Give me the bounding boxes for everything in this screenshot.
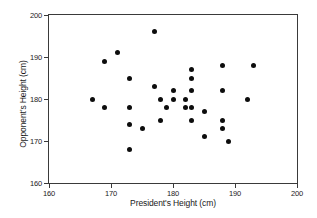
data-point bbox=[251, 63, 256, 68]
data-point bbox=[189, 118, 194, 123]
x-axis-tick-label: 160 bbox=[43, 189, 55, 198]
x-axis-tick bbox=[173, 183, 174, 188]
data-points-layer bbox=[49, 15, 297, 183]
data-point bbox=[183, 97, 188, 102]
data-point bbox=[226, 139, 231, 144]
data-point bbox=[220, 126, 225, 131]
data-point bbox=[102, 59, 107, 64]
data-point bbox=[158, 118, 163, 123]
plot-area: 160170180190200160170180190200 bbox=[48, 14, 298, 184]
scatter-chart: 160170180190200160170180190200 President… bbox=[0, 0, 317, 218]
data-point bbox=[164, 105, 169, 110]
data-point bbox=[152, 84, 157, 89]
y-axis-tick-label: 200 bbox=[30, 11, 42, 20]
data-point bbox=[202, 109, 207, 114]
data-point bbox=[189, 67, 194, 72]
data-point bbox=[127, 76, 132, 81]
data-point bbox=[220, 118, 225, 123]
data-point bbox=[102, 105, 107, 110]
x-axis-tick-label: 190 bbox=[229, 189, 241, 198]
x-axis-title: President's Height (cm) bbox=[48, 198, 298, 208]
x-axis-tick bbox=[49, 183, 50, 188]
x-axis-tick-label: 200 bbox=[291, 189, 303, 198]
data-point bbox=[171, 97, 176, 102]
x-axis-tick-label: 170 bbox=[105, 189, 117, 198]
x-axis-tick-label: 180 bbox=[167, 189, 179, 198]
data-point bbox=[202, 134, 207, 139]
data-point bbox=[220, 88, 225, 93]
y-axis-tick bbox=[44, 141, 49, 142]
y-axis-tick-label: 170 bbox=[30, 137, 42, 146]
data-point bbox=[189, 105, 194, 110]
y-axis-tick-label: 180 bbox=[30, 95, 42, 104]
data-point bbox=[127, 122, 132, 127]
x-axis-tick bbox=[235, 183, 236, 188]
y-axis-title: Opponent's Height (cm) bbox=[18, 29, 28, 179]
data-point bbox=[90, 97, 95, 102]
data-point bbox=[189, 76, 194, 81]
data-point bbox=[127, 147, 132, 152]
data-point bbox=[220, 63, 225, 68]
data-point bbox=[115, 50, 120, 55]
data-point bbox=[183, 105, 188, 110]
x-axis-tick bbox=[297, 183, 298, 188]
data-point bbox=[127, 105, 132, 110]
data-point bbox=[152, 29, 157, 34]
data-point bbox=[245, 97, 250, 102]
data-point bbox=[189, 88, 194, 93]
y-axis-tick bbox=[44, 57, 49, 58]
data-point bbox=[171, 88, 176, 93]
y-axis-tick-label: 160 bbox=[30, 179, 42, 188]
y-axis-tick bbox=[44, 15, 49, 16]
y-axis-tick-label: 190 bbox=[30, 53, 42, 62]
x-axis-tick bbox=[111, 183, 112, 188]
data-point bbox=[158, 97, 163, 102]
data-point bbox=[140, 126, 145, 131]
y-axis-tick bbox=[44, 99, 49, 100]
